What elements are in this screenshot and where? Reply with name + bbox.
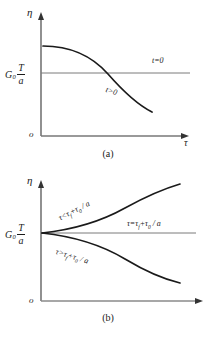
value-label-b-subscript: 0 bbox=[13, 234, 16, 241]
value-label-b-base: G0 bbox=[5, 230, 16, 240]
plot-area-b: η o G0 T a τ<τf+τ0 / a τ=τf+τ0 / a τ>τf+… bbox=[0, 170, 216, 316]
annotation-t-equals-zero: t=0 bbox=[152, 57, 164, 65]
plot-area-a: η τ o G0 T a t=0 t>0 bbox=[0, 0, 216, 146]
value-label-b-numerator: T bbox=[17, 223, 25, 235]
x-axis-b bbox=[41, 298, 203, 304]
value-label-a-base: G0 bbox=[5, 70, 16, 80]
value-label-a-denominator: a bbox=[19, 75, 24, 86]
figure-b: η o G0 T a τ<τf+τ0 / a τ=τf+τ0 / a τ>τf+… bbox=[0, 170, 216, 340]
annotation-tau-equals: τ=τf+τ0 / a bbox=[127, 220, 161, 230]
value-label-a-symbol: G bbox=[5, 70, 12, 80]
plot-svg-a bbox=[0, 0, 216, 146]
value-label-b-denominator: a bbox=[19, 235, 24, 246]
x-axis-label-a: τ bbox=[184, 138, 188, 148]
figure-b-caption: (b) bbox=[0, 312, 216, 323]
curve-t-greater-zero bbox=[43, 46, 152, 112]
value-label-a-numerator: T bbox=[17, 63, 25, 75]
y-axis-a bbox=[38, 12, 44, 136]
value-label-b: G0 T a bbox=[5, 223, 25, 246]
figure-a: η τ o G0 T a t=0 t>0 (a) bbox=[0, 0, 216, 170]
y-axis-b bbox=[38, 180, 44, 301]
figure-a-caption: (a) bbox=[0, 148, 216, 159]
value-label-a-fraction: T a bbox=[17, 63, 25, 86]
y-axis-label-b: η bbox=[27, 175, 32, 186]
origin-label-a: o bbox=[29, 130, 34, 139]
x-axis-a bbox=[41, 133, 189, 139]
value-label-b-symbol: G bbox=[5, 230, 12, 240]
y-axis-label-a: η bbox=[27, 7, 32, 18]
origin-label-b: o bbox=[29, 296, 34, 305]
value-label-a: G0 T a bbox=[5, 63, 25, 86]
value-label-b-fraction: T a bbox=[17, 223, 25, 246]
value-label-a-subscript: 0 bbox=[13, 74, 16, 81]
